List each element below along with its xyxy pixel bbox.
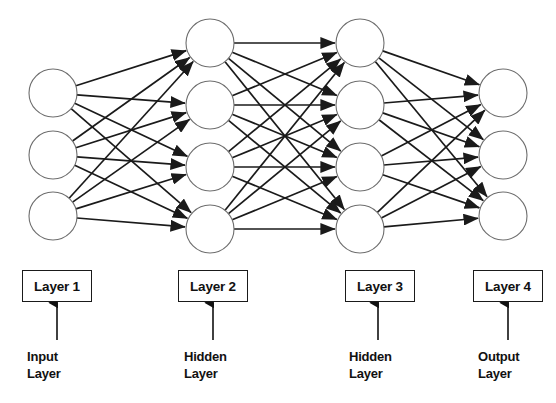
neural-network-diagram: Layer 1Layer 2Layer 3Layer 4 InputLayerH… [0, 0, 556, 403]
connection-edge [73, 58, 190, 142]
layer-box-label: Layer 4 [485, 279, 531, 294]
connection-edge [381, 104, 480, 155]
neuron-node [336, 143, 384, 191]
layer-box-1: Layer 1 [22, 270, 92, 302]
role-label-line-2: Layer [478, 365, 519, 382]
neuron-node [29, 69, 77, 117]
neuron-node [479, 69, 527, 117]
layer-box-4: Layer 4 [473, 270, 543, 302]
pointers-group [57, 303, 508, 340]
role-label-line-1: Output [478, 348, 519, 365]
connection-edge [76, 174, 186, 208]
neuron-node [336, 19, 384, 67]
layer-box-label: Layer 3 [357, 279, 403, 294]
layer-role-label-1: InputLayer [27, 348, 61, 382]
layer-box-label: Layer 1 [34, 279, 80, 294]
neuron-node [29, 192, 77, 240]
layer-role-label-4: OutputLayer [478, 348, 519, 382]
connection-edge [383, 51, 480, 85]
role-label-line-1: Hidden [349, 348, 392, 365]
neuron-node [186, 143, 234, 191]
layer-box-label: Layer 2 [190, 279, 236, 294]
connection-edge [76, 51, 186, 86]
neuron-node [479, 192, 527, 240]
role-label-line-1: Hidden [184, 348, 227, 365]
neuron-node [336, 205, 384, 253]
layer-role-label-3: HiddenLayer [349, 348, 392, 382]
layer-box-3: Layer 3 [345, 270, 415, 302]
role-label-line-2: Layer [349, 365, 392, 382]
connection-edge [73, 119, 190, 202]
connection-edge [77, 218, 185, 227]
connection-edge [381, 166, 480, 217]
connection-edge [377, 110, 484, 212]
neuron-node [29, 131, 77, 179]
network-graphics [0, 0, 556, 403]
connection-edge [384, 95, 478, 103]
connection-edge [384, 218, 478, 227]
neuron-node [186, 205, 234, 253]
role-label-line-2: Layer [184, 365, 227, 382]
neuron-node [186, 19, 234, 67]
edges-group [69, 43, 487, 229]
neuron-node [336, 81, 384, 129]
layer-role-label-2: HiddenLayer [184, 348, 227, 382]
neuron-node [186, 81, 234, 129]
layer-box-2: Layer 2 [178, 270, 248, 302]
neuron-node [479, 131, 527, 179]
role-label-line-2: Layer [27, 365, 61, 382]
role-label-line-1: Input [27, 348, 61, 365]
